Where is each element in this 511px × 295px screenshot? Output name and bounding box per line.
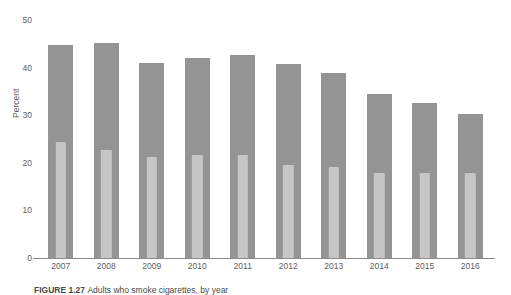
y-tick-label: 0 [27, 254, 32, 263]
y-tick-label: 30 [23, 111, 32, 120]
figure-caption: FIGURE 1.27 Adults who smoke cigarettes,… [34, 285, 504, 295]
bar-inner[interactable] [147, 157, 157, 258]
bar-group[interactable]: 2011 [230, 20, 255, 258]
y-tick-label: 50 [23, 16, 32, 25]
y-tick-label: 20 [23, 159, 32, 168]
x-tick-label: 2015 [412, 262, 437, 271]
bar-group[interactable]: 2007 [48, 20, 73, 258]
bar-outer[interactable] [48, 45, 73, 258]
bar-outer[interactable] [367, 94, 392, 258]
bar-inner[interactable] [374, 173, 384, 258]
bar-inner[interactable] [56, 142, 66, 258]
bar-inner[interactable] [283, 165, 293, 258]
y-tick-label: 10 [23, 206, 32, 215]
plot-area: 01020304050 2007200820092010201120122013… [38, 20, 493, 258]
bar-group[interactable]: 2014 [367, 20, 392, 258]
bar-inner[interactable] [238, 155, 248, 258]
bar-inner[interactable] [101, 150, 111, 258]
x-tick-label: 2016 [458, 262, 483, 271]
bar-group[interactable]: 2016 [458, 20, 483, 258]
bar-outer[interactable] [185, 58, 210, 258]
x-tick-label: 2008 [94, 262, 119, 271]
x-tick-label: 2010 [185, 262, 210, 271]
x-tick-label: 2007 [48, 262, 73, 271]
bar-outer[interactable] [139, 63, 164, 258]
y-axis-title: Percent [12, 89, 21, 118]
bar-outer[interactable] [94, 43, 119, 258]
bar-outer[interactable] [230, 55, 255, 258]
bar-outer[interactable] [321, 73, 346, 258]
bar-group[interactable]: 2008 [94, 20, 119, 258]
bar-inner[interactable] [420, 173, 430, 258]
bar-inner[interactable] [192, 155, 202, 258]
bar-outer[interactable] [276, 64, 301, 258]
x-tick-label: 2014 [367, 262, 392, 271]
x-tick-label: 2013 [321, 262, 346, 271]
y-tick-label: 40 [23, 63, 32, 72]
x-tick-label: 2011 [230, 262, 255, 271]
bar-inner[interactable] [329, 167, 339, 258]
x-tick-label: 2012 [276, 262, 301, 271]
bar-group[interactable]: 2010 [185, 20, 210, 258]
bar-group[interactable]: 2009 [139, 20, 164, 258]
bar-group[interactable]: 2012 [276, 20, 301, 258]
x-axis-line [33, 258, 495, 259]
bar-outer[interactable] [458, 114, 483, 258]
caption-text: Adults who smoke cigarettes, by year [87, 285, 228, 295]
x-tick-label: 2009 [139, 262, 164, 271]
bar-outer[interactable] [412, 103, 437, 258]
caption-label: FIGURE 1.27 [34, 285, 85, 295]
figure-container: Percent 01020304050 20072008200920102011… [0, 0, 511, 295]
bar-inner[interactable] [465, 173, 475, 258]
bar-group[interactable]: 2015 [412, 20, 437, 258]
bar-group[interactable]: 2013 [321, 20, 346, 258]
